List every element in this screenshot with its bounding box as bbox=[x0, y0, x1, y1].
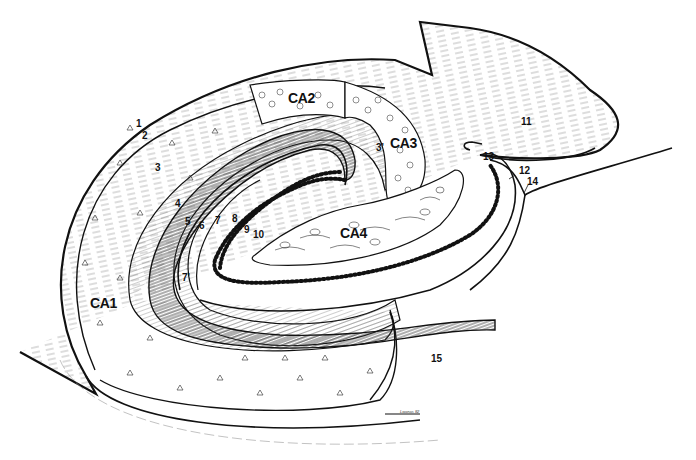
fimbria-region bbox=[464, 142, 672, 290]
label-10: 10 bbox=[253, 230, 264, 240]
label-8: 8 bbox=[232, 214, 238, 224]
label-14: 14 bbox=[527, 177, 538, 187]
hippocampus-diagram: CA1 CA2 CA3 CA4 1 2 3 3' 4 5 6 7 7' 8 9 … bbox=[0, 0, 696, 460]
label-3: 3 bbox=[155, 163, 161, 173]
label-11: 11 bbox=[521, 117, 532, 127]
label-ca1: CA1 bbox=[90, 296, 117, 310]
label-ca3: CA3 bbox=[390, 136, 417, 150]
label-12: 12 bbox=[519, 166, 530, 176]
label-9: 9 bbox=[244, 225, 250, 235]
label-15: 15 bbox=[431, 354, 442, 364]
label-6: 6 bbox=[199, 221, 205, 231]
label-ca2: CA2 bbox=[288, 91, 315, 105]
label-13: 13 bbox=[483, 152, 494, 162]
artist-signature: Lwanas 82 bbox=[400, 409, 419, 414]
label-ca4: CA4 bbox=[340, 226, 367, 240]
label-7: 7 bbox=[215, 216, 221, 226]
label-7-prime: 7' bbox=[182, 273, 190, 283]
label-5: 5 bbox=[185, 217, 191, 227]
label-2: 2 bbox=[142, 131, 148, 141]
label-4: 4 bbox=[175, 199, 181, 209]
label-3-prime: 3' bbox=[376, 143, 384, 153]
label-1: 1 bbox=[136, 119, 142, 129]
